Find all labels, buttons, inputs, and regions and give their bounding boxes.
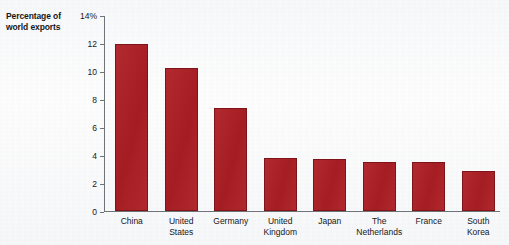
y-tick-mark	[100, 212, 104, 213]
x-axis-category-label: South Korea	[441, 216, 509, 237]
y-tick-mark	[100, 156, 104, 157]
bar-group: China	[115, 16, 148, 211]
bar-group: Japan	[313, 16, 346, 211]
bar	[165, 68, 198, 211]
y-tick-label: 8	[92, 95, 97, 105]
y-tick-mark	[100, 184, 104, 185]
y-axis-title-line-2: world exports	[6, 22, 60, 32]
bar	[363, 162, 396, 211]
bar	[214, 108, 247, 211]
y-tick-mark	[100, 16, 104, 17]
y-axis-title: Percentage ofworld exports	[6, 11, 84, 32]
bar-group: South Korea	[462, 16, 495, 211]
bar	[264, 158, 297, 211]
y-axis-title-line-1: Percentage of	[6, 11, 61, 21]
bar-chart: Percentage ofworld exports 02468101214% …	[0, 0, 509, 245]
bar-group: United Kingdom	[264, 16, 297, 211]
y-tick-label: 6	[92, 123, 97, 133]
bar-group: United States	[165, 16, 198, 211]
bar-group: The Netherlands	[363, 16, 396, 211]
bar-group: France	[412, 16, 445, 211]
bar	[115, 44, 148, 211]
bar-group: Germany	[214, 16, 247, 211]
y-tick-label: 12	[88, 39, 97, 49]
y-tick-mark	[100, 44, 104, 45]
plot-area: 02468101214% ChinaUnited StatesGermanyUn…	[104, 16, 500, 212]
y-tick-label: 2	[92, 179, 97, 189]
y-tick-label: 14%	[80, 11, 97, 21]
y-tick-mark	[100, 72, 104, 73]
bar	[412, 162, 445, 211]
x-axis-line	[104, 211, 500, 212]
bar-series: ChinaUnited StatesGermanyUnited KingdomJ…	[105, 16, 500, 211]
y-tick-label: 10	[88, 67, 97, 77]
bar	[462, 171, 495, 211]
y-tick-mark	[100, 128, 104, 129]
y-tick-label: 4	[92, 151, 97, 161]
y-tick-label: 0	[92, 207, 97, 217]
y-tick-mark	[100, 100, 104, 101]
bar	[313, 159, 346, 211]
